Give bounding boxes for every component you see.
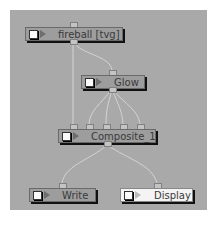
play-arrow-icon	[73, 132, 79, 140]
node-display[interactable]: Display	[120, 188, 193, 202]
node-label: Write	[62, 189, 88, 202]
node-label: fireball [tvg]	[58, 28, 120, 41]
node-label: Display	[154, 189, 191, 202]
play-arrow-icon	[40, 30, 46, 38]
node-write[interactable]: Write	[29, 188, 96, 202]
node-label: Glow	[114, 76, 139, 89]
composite-output-port[interactable]	[104, 141, 112, 147]
play-arrow-icon	[96, 78, 102, 86]
node-label: Composite_1	[91, 130, 156, 143]
enable-checkbox[interactable]	[85, 78, 94, 87]
fireball-output-port[interactable]	[70, 39, 78, 45]
enable-checkbox[interactable]	[33, 191, 42, 200]
play-arrow-icon	[44, 191, 50, 199]
play-arrow-icon	[135, 191, 141, 199]
enable-checkbox[interactable]	[29, 30, 38, 39]
enable-checkbox[interactable]	[124, 191, 133, 200]
enable-checkbox[interactable]	[62, 132, 71, 141]
glow-output-port[interactable]	[109, 87, 117, 93]
